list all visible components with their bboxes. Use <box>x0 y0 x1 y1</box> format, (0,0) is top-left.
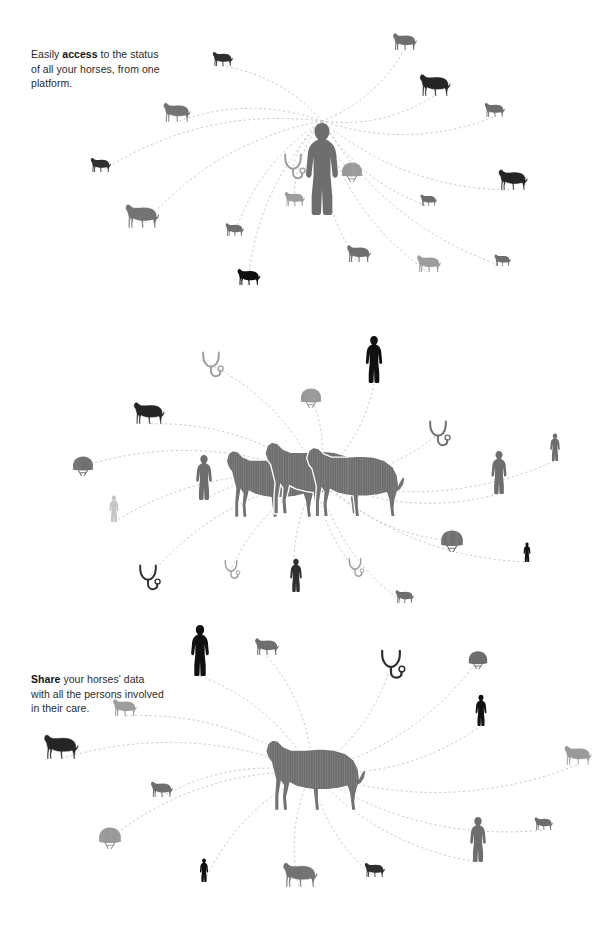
caption-access: Easily access to the status of all your … <box>31 47 211 91</box>
panel-share: Share your horses' data with all the per… <box>0 320 615 620</box>
caption-access-lead: Easily <box>31 48 62 60</box>
person-silhouette <box>200 858 208 882</box>
person-silhouette <box>366 336 382 383</box>
connector-line <box>322 96 434 122</box>
caption-share-keyword: Share <box>31 673 60 685</box>
connector-line <box>141 121 322 228</box>
connector-line <box>234 121 322 236</box>
horse-silhouette <box>151 782 173 797</box>
panel-access: Easily access to the status of all your … <box>0 0 615 320</box>
person-silhouette <box>476 695 487 726</box>
horse-silhouette <box>393 33 417 50</box>
riding-helmet-icon <box>468 651 487 669</box>
person-silhouette <box>470 817 486 862</box>
horse-silhouette <box>499 170 528 190</box>
infographic-page: Easily access to the status of all your … <box>0 0 615 944</box>
horse-silhouette <box>134 402 165 424</box>
horse-silhouette <box>44 735 79 759</box>
stethoscope-icon <box>203 352 223 376</box>
stethoscope-icon <box>285 154 305 178</box>
person-silhouette <box>492 451 507 494</box>
central-horse <box>266 740 366 810</box>
panel-choose: Choose which information of your horses … <box>0 620 615 944</box>
caption-access-line3: platform. <box>31 76 211 91</box>
connector-line <box>322 50 404 121</box>
caption-share-line1: Share your horses' data <box>31 672 211 687</box>
horse-silhouette <box>285 192 305 206</box>
riding-helmet-icon <box>72 456 93 476</box>
stethoscope-icon <box>382 651 405 678</box>
horse-silhouette <box>238 269 261 285</box>
riding-helmet-icon <box>99 828 122 849</box>
horse-silhouette <box>485 103 505 117</box>
horse-silhouette <box>420 194 436 206</box>
horse-silhouette <box>365 863 385 877</box>
person-silhouette <box>109 496 118 522</box>
horse-silhouette <box>226 223 244 236</box>
horse-silhouette <box>396 590 414 603</box>
caption-share-line2: with all the persons involved <box>31 687 211 702</box>
person-silhouette <box>550 434 560 461</box>
caption-access-line1: Easily access to the status <box>31 47 211 62</box>
connector-line <box>322 121 512 190</box>
connector-line <box>322 117 494 135</box>
stethoscope-icon <box>225 561 240 578</box>
person-silhouette <box>524 542 531 562</box>
horse-silhouette <box>125 204 159 228</box>
horse-silhouette <box>163 103 190 122</box>
caption-share-line3: in their care. <box>31 701 211 716</box>
caption-share-rest: your horses' data <box>60 673 144 685</box>
caption-access-rest: to the status <box>98 48 159 60</box>
connector-line <box>100 118 322 172</box>
horse-silhouette <box>255 638 279 655</box>
horse-silhouette <box>213 52 233 66</box>
panel-choose-graphic <box>0 620 615 944</box>
person-silhouette <box>191 625 209 676</box>
horse-silhouette <box>417 255 441 272</box>
caption-access-line2: of all your horses, from one <box>31 62 211 77</box>
connector-line <box>322 121 428 272</box>
horse-silhouette <box>535 817 553 830</box>
caption-share: Share your horses' data with all the per… <box>31 672 211 716</box>
horse-silhouette <box>420 74 451 96</box>
horse-silhouette <box>283 863 318 887</box>
horse-silhouette <box>564 746 591 765</box>
riding-helmet-icon <box>300 388 321 408</box>
horse-silhouette <box>347 245 371 262</box>
horse-silhouette <box>307 447 405 516</box>
person-silhouette <box>196 455 212 500</box>
stethoscope-icon <box>430 421 450 445</box>
panel-share-graphic <box>0 320 615 620</box>
stethoscope-icon <box>349 559 364 576</box>
connector-line <box>322 121 502 266</box>
connector-line <box>222 66 322 121</box>
caption-access-keyword: access <box>62 48 97 60</box>
stethoscope-icon <box>140 565 160 589</box>
horse-silhouette <box>91 158 111 172</box>
person-silhouette <box>290 559 302 592</box>
